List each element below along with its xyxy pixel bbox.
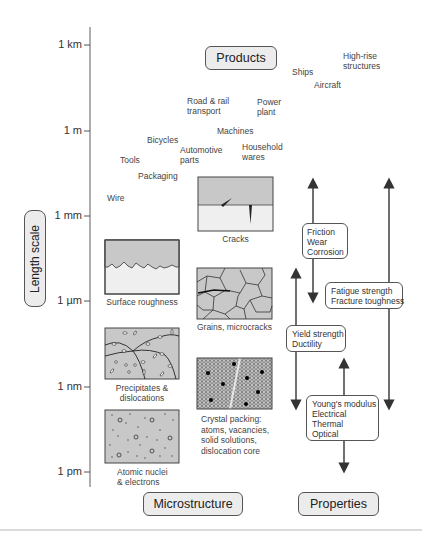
property-yield-box: Yield strength Ductility xyxy=(286,325,346,352)
product-high-rise: High-risestructures xyxy=(343,51,380,71)
products-header: Products xyxy=(205,46,277,70)
product-road-rail: Road & railtransport xyxy=(187,96,229,116)
grains-panel xyxy=(197,268,272,319)
precipitates-panel xyxy=(105,328,179,379)
product-packaging: Packaging xyxy=(138,171,178,181)
length-scale-pill: Length scale xyxy=(24,210,46,307)
properties-header: Properties xyxy=(298,492,379,516)
tick-1km: 1 km xyxy=(22,38,82,50)
caption-cracks: Cracks xyxy=(198,234,273,244)
atomic-nuclei-panel xyxy=(105,410,179,463)
property-youngs-box: Young's modulus Electrical Thermal Optic… xyxy=(306,395,379,441)
caption-surface-roughness: Surface roughness xyxy=(100,297,184,307)
microstructure-header: Microstructure xyxy=(143,492,243,516)
product-household: Householdwares xyxy=(242,142,283,162)
caption-precipitates: Precipitates &dislocations xyxy=(100,383,184,403)
surface-roughness-panel xyxy=(105,240,179,294)
product-aircraft: Aircraft xyxy=(314,80,341,90)
product-automotive: Automotiveparts xyxy=(180,145,223,165)
diagram-graphics xyxy=(0,0,422,538)
product-ships: Ships xyxy=(292,67,313,77)
tick-1nm: 1 nm xyxy=(22,380,82,392)
property-fatigue-box: Fatigue strength Fracture toughness xyxy=(325,282,403,309)
product-machines: Machines xyxy=(217,126,253,136)
caption-atomic-nuclei: Atomic nuclei& electrons xyxy=(117,467,168,487)
tick-1m: 1 m xyxy=(22,124,82,136)
product-power-plant: Powerplant xyxy=(257,97,281,117)
property-friction-box: Friction Wear Corrosion xyxy=(302,223,348,259)
tick-1pm: 1 pm xyxy=(22,465,82,477)
caption-grains: Grains, microcracks xyxy=(192,322,277,332)
product-bicycles: Bicycles xyxy=(147,135,178,145)
caption-crystal-packing: Crystal packing: atoms, vacancies, solid… xyxy=(201,414,269,456)
product-wire: Wire xyxy=(107,193,124,203)
cracks-panel xyxy=(198,177,273,231)
product-tools: Tools xyxy=(120,155,140,165)
crystal-packing-panel xyxy=(197,358,272,409)
length-scale-label: Length scale xyxy=(28,224,42,292)
